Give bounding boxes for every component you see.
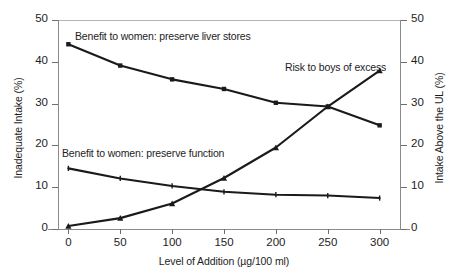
y-tick-label-right: 10 (411, 179, 441, 191)
x-tick (68, 229, 69, 234)
series-1 (66, 42, 382, 128)
data-point (274, 101, 278, 105)
y-tick-left (52, 229, 58, 230)
plot-frame-right (400, 20, 401, 230)
y-tick-label-right: 40 (411, 54, 441, 66)
y-tick-label-left: 40 (18, 54, 48, 66)
y-tick-right (401, 187, 407, 188)
x-tick (172, 229, 173, 234)
x-tick (120, 229, 121, 234)
y-tick-label-right: 0 (411, 221, 441, 233)
x-tick (276, 229, 277, 234)
plot-frame-bottom (48, 229, 410, 230)
x-tick-label: 0 (48, 236, 88, 248)
y-tick-right (401, 20, 407, 21)
x-axis-label: Level of Addition (µg/100 ml) (58, 255, 390, 267)
y-tick-label-right: 50 (411, 12, 441, 24)
y-tick-label-left: 10 (18, 179, 48, 191)
x-tick (224, 229, 225, 234)
annotation-preserve-function: Benefit to women: preserve function (62, 147, 224, 159)
y-tick-right (401, 145, 407, 146)
chart-figure: Inadequate Intake (%) Intake Above the U… (0, 0, 457, 277)
x-tick-label: 250 (308, 236, 348, 248)
x-tick-label: 200 (256, 236, 296, 248)
annotation-risk-boys: Risk to boys of excess (285, 61, 386, 73)
series-2 (68, 166, 379, 201)
data-point (377, 123, 381, 127)
data-point (118, 63, 122, 67)
y-tick-right (401, 62, 407, 63)
x-tick (328, 229, 329, 234)
y-tick-right (401, 229, 407, 230)
y-tick-label-left: 0 (18, 221, 48, 233)
data-point (66, 42, 70, 46)
annotation-liver-stores: Benefit to women: preserve liver stores (75, 30, 251, 42)
y-tick-label-left: 20 (18, 137, 48, 149)
y-tick-label-right: 30 (411, 96, 441, 108)
x-tick-label: 150 (204, 236, 244, 248)
y-tick-label-right: 20 (411, 137, 441, 149)
series-line (68, 44, 379, 125)
x-tick (380, 229, 381, 234)
y-tick-label-left: 30 (18, 96, 48, 108)
x-tick-label: 300 (360, 236, 400, 248)
x-tick-label: 50 (100, 236, 140, 248)
plot-area (58, 20, 390, 229)
x-tick-label: 100 (152, 236, 192, 248)
y-tick-right (401, 104, 407, 105)
y-tick-label-left: 50 (18, 12, 48, 24)
data-point (222, 87, 226, 91)
data-point (170, 77, 174, 81)
